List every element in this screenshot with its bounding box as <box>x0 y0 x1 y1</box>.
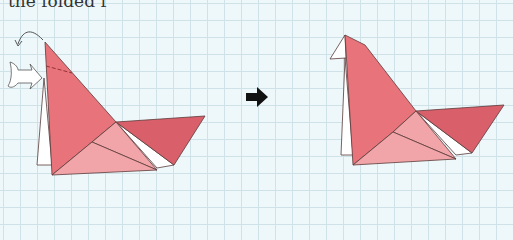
figure-before <box>8 32 205 175</box>
curved-fold-arrow <box>18 32 43 44</box>
push-arrow-icon <box>8 62 42 89</box>
head-flap <box>330 35 346 59</box>
figure-after <box>330 35 504 165</box>
right-arrow-icon <box>246 87 268 107</box>
origami-diagram <box>0 0 513 215</box>
